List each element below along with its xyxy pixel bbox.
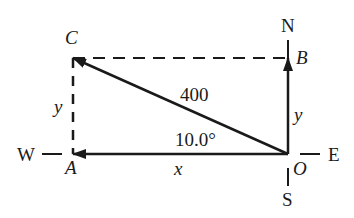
point-c-label: C (65, 27, 78, 48)
point-a-label: A (63, 157, 77, 178)
east-label: E (328, 144, 340, 165)
y-component-left-label: y (52, 96, 63, 117)
vector-diagram: N S E W C B A O 400 10.0° x y y (0, 0, 354, 218)
point-o-label: O (293, 158, 307, 179)
x-component-label: x (173, 158, 183, 179)
south-label: S (282, 189, 293, 210)
point-b-label: B (296, 47, 308, 68)
north-label: N (281, 15, 295, 36)
angle-label: 10.0° (175, 129, 216, 150)
magnitude-label: 400 (180, 84, 209, 105)
y-component-right-label: y (292, 104, 303, 125)
west-label: W (17, 144, 35, 165)
